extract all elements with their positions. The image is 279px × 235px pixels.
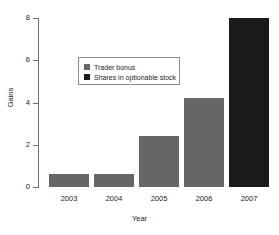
bar xyxy=(94,174,134,187)
x-axis-tick-label: 2005 xyxy=(139,194,179,203)
legend-entry: Trader bonus xyxy=(84,62,135,72)
chart-legend: Trader bonusShares in optionable stock xyxy=(78,57,180,85)
x-axis-tick-label: 2007 xyxy=(229,194,269,203)
y-axis-tick xyxy=(33,145,38,146)
bar-chart-plot-area: 02468 Gains 20032004200520062007 Year Tr… xyxy=(0,0,279,235)
chart-screenshot: 02468 Gains 20032004200520062007 Year Tr… xyxy=(0,0,279,235)
y-axis-tick xyxy=(33,60,38,61)
bar xyxy=(49,174,89,187)
y-axis-tick-label: 0 xyxy=(10,183,30,191)
y-axis-tick-label: 8 xyxy=(10,14,30,22)
legend-entry: Shares in optionable stock xyxy=(84,72,176,82)
y-axis-line xyxy=(38,18,39,188)
y-axis-tick xyxy=(33,187,38,188)
x-axis-tick-label: 2003 xyxy=(49,194,89,203)
bar xyxy=(139,136,179,187)
y-axis-tick-label: 2 xyxy=(10,141,30,149)
bar xyxy=(229,18,269,187)
legend-label: Trader bonus xyxy=(94,64,135,71)
x-axis-tick-label: 2006 xyxy=(184,194,224,203)
y-axis-title: Gains xyxy=(6,78,15,118)
x-axis-title: Year xyxy=(0,214,279,223)
legend-swatch-icon xyxy=(84,64,90,70)
bar xyxy=(184,98,224,187)
legend-swatch-icon xyxy=(84,74,90,80)
y-axis-tick xyxy=(33,18,38,19)
y-axis-tick xyxy=(33,103,38,104)
x-axis-tick-label: 2004 xyxy=(94,194,134,203)
y-axis-tick-label: 6 xyxy=(10,56,30,64)
legend-label: Shares in optionable stock xyxy=(94,74,176,81)
